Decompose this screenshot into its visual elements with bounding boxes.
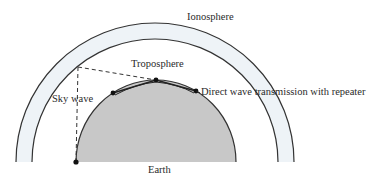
direct-wave-label: Direct wave transmission with repeater <box>201 86 366 97</box>
propagation-diagram: Ionosphere Troposphere Sky wave Direct w… <box>0 0 369 181</box>
sky-wave-label: Sky wave <box>52 93 93 104</box>
troposphere-label: Troposphere <box>131 58 184 69</box>
repeater-dot-left <box>111 91 116 96</box>
ionosphere-label: Ionosphere <box>187 11 234 22</box>
sky-wave-transmitter-dot <box>73 159 78 164</box>
repeater-dot-top <box>154 78 159 83</box>
earth-label: Earth <box>148 164 171 175</box>
